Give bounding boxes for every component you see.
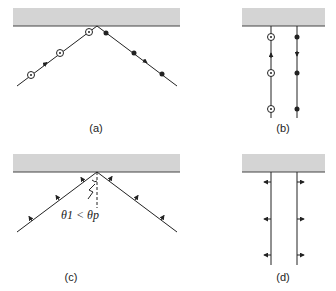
surface-slab [242, 154, 325, 172]
panel-d: (d) [242, 154, 325, 283]
panel-a: (a) [13, 8, 180, 134]
panel-label: (d) [276, 271, 289, 283]
polarization-arrows [264, 182, 304, 255]
panel-label: (c) [65, 271, 78, 283]
panel-c: θ1 < θp (c) [13, 154, 180, 283]
diagram-canvas: (a) (b) [0, 0, 336, 291]
panel-label: (a) [89, 122, 102, 134]
angle-pointer [88, 184, 95, 199]
panel-label: (b) [276, 122, 289, 134]
ray-path [17, 26, 177, 86]
panel-b: (b) [242, 8, 325, 134]
surface-slab [242, 8, 325, 26]
surface-slab [13, 154, 180, 172]
surface-slab [13, 8, 180, 26]
angle-annotation: θ1 < θp [61, 208, 99, 222]
angle-arc [92, 180, 97, 182]
figure: (a) (b) [0, 0, 336, 291]
